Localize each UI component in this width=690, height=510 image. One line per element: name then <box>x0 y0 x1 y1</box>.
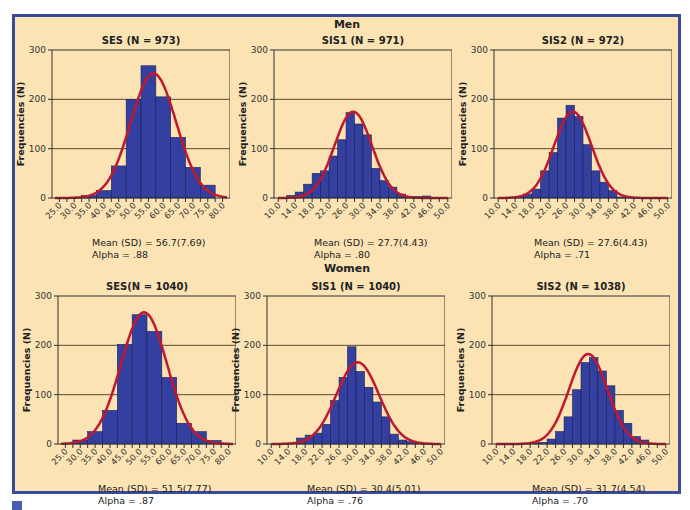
histogram-women-sis1: SIS1 (N = 1040)010020030010.014.018.022.… <box>225 272 445 510</box>
x-tick-label: 34.0 <box>582 446 602 466</box>
x-tick-label: 46.0 <box>415 200 435 220</box>
histogram-bar <box>329 156 337 198</box>
histogram-bar <box>338 140 346 198</box>
x-tick-label: 30.0 <box>567 200 587 220</box>
histogram-bar <box>532 189 540 198</box>
x-tick-label: 18.0 <box>289 446 309 466</box>
histogram-bar <box>591 171 599 198</box>
histogram-bar <box>348 347 356 444</box>
mean-sd-text: Mean (SD) = 31.7(4.54) <box>532 483 645 494</box>
y-tick-label: 300 <box>469 291 486 301</box>
x-tick-label: 18.0 <box>516 200 536 220</box>
x-tick-label: 38.0 <box>599 446 619 466</box>
histogram-bar <box>583 145 591 198</box>
y-tick-label: 100 <box>469 390 486 400</box>
histogram-bar <box>398 440 406 444</box>
histogram-bar <box>322 424 330 444</box>
histogram-bar <box>147 332 162 444</box>
y-tick-label: 0 <box>480 439 486 449</box>
histogram-men-ses: SES (N = 973)010020030025.030.035.040.04… <box>10 26 230 265</box>
histogram-bar <box>600 182 608 198</box>
chart-title: SIS2 (N = 1038) <box>536 281 625 292</box>
histogram-women-sis2: SIS2 (N = 1038)010020030010.014.018.022.… <box>450 272 670 510</box>
histogram-bar <box>371 168 379 198</box>
x-tick-label: 10.0 <box>482 200 502 220</box>
histogram-bar <box>117 344 132 444</box>
y-axis-label: Frequencies (N) <box>21 328 32 413</box>
histogram-bar <box>363 135 371 198</box>
y-tick-label: 300 <box>251 45 268 55</box>
alpha-text: Alpha = .88 <box>92 249 148 260</box>
histogram-bar <box>606 386 614 444</box>
y-tick-label: 0 <box>255 439 261 449</box>
x-tick-label: 14.0 <box>499 200 519 220</box>
mean-sd-text: Mean (SD) = 27.6(4.43) <box>534 237 647 248</box>
alpha-text: Alpha = .71 <box>534 249 590 260</box>
x-tick-label: 22.0 <box>313 200 333 220</box>
x-tick-label: 26.0 <box>550 200 570 220</box>
histogram-bar <box>390 434 398 444</box>
y-tick-label: 200 <box>251 94 268 104</box>
y-tick-label: 300 <box>29 45 46 55</box>
x-tick-label: 10.0 <box>255 446 275 466</box>
mean-sd-text: Mean (SD) = 27.7(4.43) <box>314 237 427 248</box>
histogram-women-ses: SES(N = 1040)010020030025.030.035.040.04… <box>16 272 236 510</box>
mean-sd-text: Mean (SD) = 51.5(7.77) <box>98 483 211 494</box>
x-tick-label: 22.0 <box>531 446 551 466</box>
y-tick-label: 200 <box>469 340 486 350</box>
x-tick-label: 30.0 <box>340 446 360 466</box>
histogram-bar <box>589 358 597 444</box>
histogram-bar <box>549 153 557 198</box>
histogram-bar <box>355 124 363 198</box>
alpha-text: Alpha = .70 <box>532 495 588 506</box>
histogram-bar <box>564 417 572 444</box>
x-tick-label: 14.0 <box>279 200 299 220</box>
histogram-bar <box>373 402 381 444</box>
alpha-text: Alpha = .87 <box>98 495 154 506</box>
x-tick-label: 42.0 <box>618 200 638 220</box>
histogram-bar <box>573 390 581 444</box>
y-tick-label: 100 <box>251 144 268 154</box>
y-tick-label: 100 <box>244 390 261 400</box>
x-tick-label: 14.0 <box>497 446 517 466</box>
x-tick-label: 34.0 <box>584 200 604 220</box>
x-tick-label: 38.0 <box>601 200 621 220</box>
y-tick-label: 300 <box>244 291 261 301</box>
chart-title: SES(N = 1040) <box>106 281 188 292</box>
histogram-bar <box>581 363 589 444</box>
alpha-text: Alpha = .80 <box>314 249 370 260</box>
histogram-men-sis1: SIS1 (N = 971)010020030010.014.018.022.0… <box>232 26 452 265</box>
x-tick-label: 30.0 <box>565 446 585 466</box>
x-tick-label: 26.0 <box>330 200 350 220</box>
x-tick-label: 34.0 <box>364 200 384 220</box>
y-axis-label: Frequencies (N) <box>237 82 248 167</box>
y-axis-label: Frequencies (N) <box>230 328 241 413</box>
x-tick-label: 22.0 <box>533 200 553 220</box>
x-tick-label: 18.0 <box>296 200 316 220</box>
x-tick-label: 42.0 <box>398 200 418 220</box>
histogram-bar <box>364 387 372 444</box>
y-tick-label: 100 <box>35 390 52 400</box>
histogram-bar <box>566 105 574 198</box>
chart-title: SES (N = 973) <box>102 35 180 46</box>
x-tick-label: 34.0 <box>357 446 377 466</box>
y-axis-label: Frequencies (N) <box>15 82 26 167</box>
histogram-men-sis2: SIS2 (N = 972)010020030010.014.018.022.0… <box>452 26 672 265</box>
chart-title: SIS1 (N = 1040) <box>311 281 400 292</box>
histogram-bar <box>156 97 171 198</box>
y-tick-label: 0 <box>262 193 268 203</box>
histogram-bar <box>556 432 564 444</box>
y-tick-label: 0 <box>46 439 52 449</box>
mean-sd-text: Mean (SD) = 30.4(5.01) <box>307 483 420 494</box>
y-tick-label: 200 <box>35 340 52 350</box>
x-tick-label: 50.0 <box>650 446 670 466</box>
x-tick-label: 22.0 <box>306 446 326 466</box>
histogram-bar <box>547 439 555 444</box>
histogram-bar <box>356 371 364 444</box>
x-tick-label: 10.0 <box>262 200 282 220</box>
x-tick-label: 80.0 <box>207 200 227 220</box>
x-tick-label: 46.0 <box>633 446 653 466</box>
histogram-bar <box>88 432 103 444</box>
x-tick-label: 50.0 <box>652 200 672 220</box>
x-tick-label: 30.0 <box>347 200 367 220</box>
